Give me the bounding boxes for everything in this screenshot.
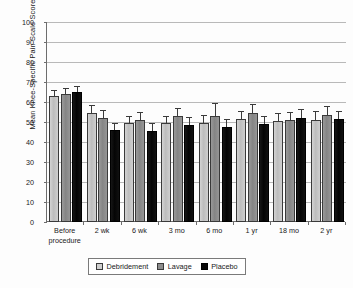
bar[interactable] xyxy=(135,120,145,222)
error-bar-cap xyxy=(336,111,342,112)
y-tick-mark xyxy=(44,222,47,223)
x-tick-label: 1 yr xyxy=(233,226,270,236)
bar[interactable] xyxy=(285,120,295,222)
legend-swatch xyxy=(201,263,208,270)
error-bar xyxy=(241,112,242,119)
bar-group xyxy=(234,22,271,222)
bar[interactable] xyxy=(334,119,344,222)
bar[interactable] xyxy=(147,131,157,222)
legend-label: Lavage xyxy=(168,262,192,271)
x-tick-mark xyxy=(83,222,84,225)
chart-figure: Mean Knee-Specific Pain Scale Score 0102… xyxy=(0,0,353,288)
error-bar xyxy=(166,117,167,124)
y-tick-label: 40 xyxy=(8,138,34,147)
error-bar xyxy=(290,113,291,121)
bar[interactable] xyxy=(184,125,194,222)
error-bar xyxy=(65,89,66,94)
error-bar-cap xyxy=(74,86,80,87)
error-bar xyxy=(103,111,104,118)
error-bar xyxy=(140,113,141,120)
error-bar-cap xyxy=(324,106,330,107)
error-bar xyxy=(152,124,153,130)
error-bar-cap xyxy=(51,90,57,91)
bar[interactable] xyxy=(61,94,71,222)
bar-group xyxy=(271,22,308,222)
error-bar-cap xyxy=(275,113,281,114)
bar[interactable] xyxy=(236,119,246,222)
x-tick-label: 18 mo xyxy=(270,226,307,236)
x-tick-mark xyxy=(270,222,271,225)
legend-item[interactable]: Lavage xyxy=(157,262,191,271)
bar[interactable] xyxy=(248,113,258,222)
error-bar-cap xyxy=(313,111,319,112)
x-tick-mark xyxy=(345,222,346,225)
bar[interactable] xyxy=(296,118,306,222)
error-bar-cap xyxy=(137,112,143,113)
error-bar xyxy=(91,106,92,113)
error-bar xyxy=(189,118,190,125)
bar[interactable] xyxy=(210,116,220,222)
x-axis-labels: Before procedure2 wk6 wk3 mo6 mo1 yr18 m… xyxy=(46,226,345,256)
y-tick-label: 30 xyxy=(8,158,34,167)
legend-swatch xyxy=(157,263,164,270)
error-bar xyxy=(264,117,265,124)
chart-legend: DebridementLavagePlacebo xyxy=(88,258,246,275)
bar[interactable] xyxy=(72,92,82,222)
x-tick-label: 2 yr xyxy=(308,226,345,236)
x-tick-mark xyxy=(121,222,122,225)
x-tick-mark xyxy=(196,222,197,225)
bar[interactable] xyxy=(199,123,209,222)
error-bar xyxy=(252,105,253,113)
error-bar xyxy=(54,91,55,96)
error-bar xyxy=(77,87,78,93)
error-bar-cap xyxy=(126,116,132,117)
bar[interactable] xyxy=(98,118,108,222)
bar[interactable] xyxy=(124,123,134,222)
legend-swatch xyxy=(96,263,103,270)
error-bar-cap xyxy=(149,123,155,124)
plot-area: 0102030405060708090100 xyxy=(46,22,345,222)
bar[interactable] xyxy=(273,121,283,222)
bar[interactable] xyxy=(222,127,232,222)
legend-item[interactable]: Debridement xyxy=(96,262,148,271)
error-bar-cap xyxy=(238,111,244,112)
bar[interactable] xyxy=(161,123,171,222)
bar[interactable] xyxy=(311,120,321,222)
error-bar xyxy=(203,116,204,123)
x-tick-label: 6 wk xyxy=(121,226,158,236)
error-bar-cap xyxy=(287,112,293,113)
legend-item[interactable]: Placebo xyxy=(201,262,238,271)
error-bar xyxy=(215,104,216,115)
error-bar xyxy=(226,120,227,126)
error-bar xyxy=(177,109,178,116)
bar[interactable] xyxy=(322,115,332,222)
y-tick-label: 50 xyxy=(8,118,34,127)
bar-group xyxy=(197,22,234,222)
y-tick-label: 60 xyxy=(8,98,34,107)
x-tick-label: 2 wk xyxy=(83,226,120,236)
error-bar xyxy=(278,114,279,121)
bar[interactable] xyxy=(110,130,120,222)
bar[interactable] xyxy=(49,96,59,222)
error-bar xyxy=(327,107,328,115)
bar-group xyxy=(47,22,84,222)
error-bar-cap xyxy=(298,109,304,110)
bar[interactable] xyxy=(173,116,183,222)
legend-label: Debridement xyxy=(107,262,149,271)
y-tick-label: 80 xyxy=(8,58,34,67)
bar-series-container xyxy=(47,22,346,222)
y-tick-label: 100 xyxy=(8,18,34,27)
x-tick-label: 3 mo xyxy=(158,226,195,236)
bar[interactable] xyxy=(87,113,97,222)
error-bar-cap xyxy=(175,108,181,109)
bar-group xyxy=(122,22,159,222)
bar[interactable] xyxy=(259,124,269,222)
error-bar-cap xyxy=(89,105,95,106)
error-bar xyxy=(301,110,302,118)
error-bar-cap xyxy=(112,123,118,124)
error-bar xyxy=(315,112,316,119)
error-bar-cap xyxy=(186,117,192,118)
error-bar-cap xyxy=(261,116,267,117)
error-bar-cap xyxy=(163,116,169,117)
y-tick-label: 0 xyxy=(8,218,34,227)
